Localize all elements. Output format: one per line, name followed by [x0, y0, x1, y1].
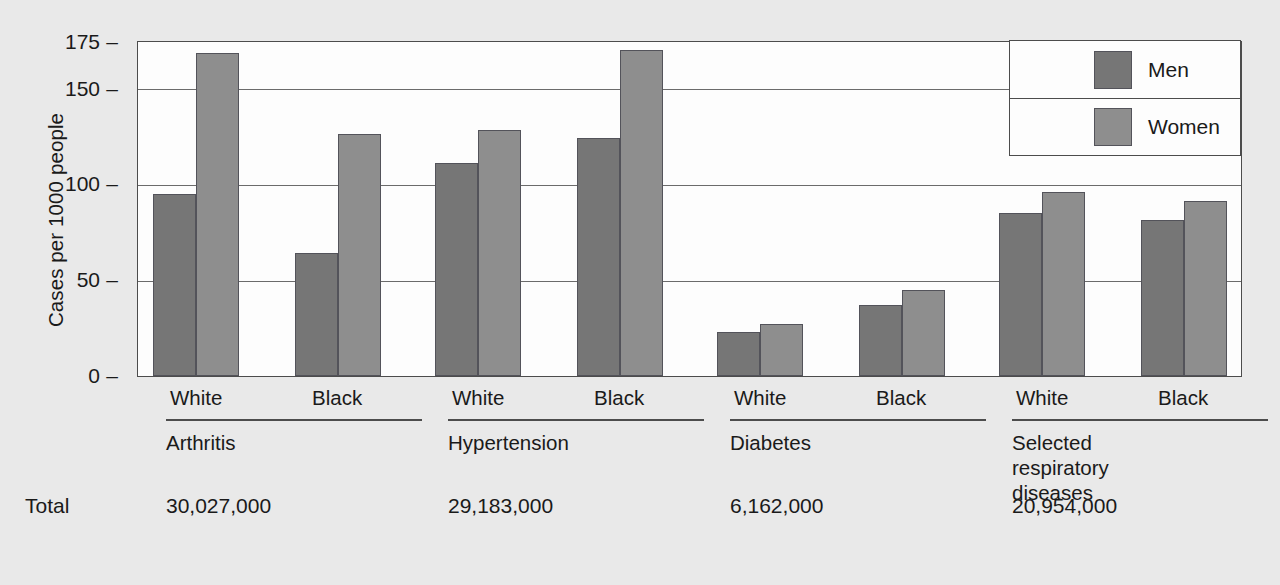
bar-arthritis-white-men — [153, 194, 196, 376]
y-tick-150: 150– — [40, 78, 118, 99]
tick-dash-icon: – — [105, 31, 118, 52]
x-sub-label-white: White — [452, 386, 504, 410]
x-sub-label-white: White — [1016, 386, 1068, 410]
bar-hypertension-white-women — [478, 130, 521, 376]
x-sub-label-black: Black — [1158, 386, 1208, 410]
tick-dash-icon: – — [105, 173, 118, 194]
y-tick-50-text: 50 — [77, 268, 100, 291]
bar-chart-figure: Cases per 1000 people 175– 150– 100– 50–… — [0, 0, 1280, 585]
bar-arthritis-black-men — [295, 253, 338, 376]
x-group-name-diabetes: Diabetes — [730, 430, 811, 455]
x-group-rule — [730, 419, 986, 421]
y-tick-100-text: 100 — [65, 172, 100, 195]
x-sub-label-white: White — [734, 386, 786, 410]
bar-diabetes-white-women — [760, 324, 803, 376]
y-tick-175-text: 175 — [65, 30, 100, 53]
legend-item-women: Women — [1010, 98, 1240, 155]
legend-label-men: Men — [1148, 58, 1189, 82]
legend-item-men: Men — [1010, 41, 1240, 98]
tick-dash-icon: – — [105, 365, 118, 386]
tick-dash-icon: – — [105, 269, 118, 290]
y-tick-0-text: 0 — [88, 364, 100, 387]
x-group-name-arthritis: Arthritis — [166, 430, 235, 455]
bar-arthritis-black-women — [338, 134, 381, 376]
total-value-diabetes: 6,162,000 — [730, 494, 823, 518]
y-tick-50: 50– — [40, 269, 118, 290]
bar-hypertension-black-men — [577, 138, 620, 376]
y-tick-175: 175– — [40, 31, 118, 52]
bar-selected-respiratory-diseases-black-women — [1184, 201, 1227, 376]
bar-selected-respiratory-diseases-white-men — [999, 213, 1042, 376]
total-row-label: Total — [25, 494, 69, 518]
x-group-rule — [166, 419, 422, 421]
legend-swatch-women-icon — [1094, 108, 1132, 146]
bar-selected-respiratory-diseases-black-men — [1141, 220, 1184, 376]
bar-diabetes-black-men — [859, 305, 902, 376]
bar-diabetes-white-men — [717, 332, 760, 376]
x-sub-label-black: Black — [594, 386, 644, 410]
total-value-respiratory: 20,954,000 — [1012, 494, 1117, 518]
x-group-name-hypertension: Hypertension — [448, 430, 569, 455]
total-value-arthritis: 30,027,000 — [166, 494, 271, 518]
x-sub-label-white: White — [170, 386, 222, 410]
y-tick-100: 100– — [40, 173, 118, 194]
bar-arthritis-white-women — [196, 53, 239, 376]
total-value-hypertension: 29,183,000 — [448, 494, 553, 518]
y-axis-label: Cases per 1000 people — [44, 60, 68, 380]
plot-area: Men Women — [137, 41, 1242, 377]
legend-label-women: Women — [1148, 115, 1220, 139]
bar-hypertension-white-men — [435, 163, 478, 376]
bar-hypertension-black-women — [620, 50, 663, 376]
tick-dash-icon: – — [105, 78, 118, 99]
bar-diabetes-black-women — [902, 290, 945, 376]
y-tick-150-text: 150 — [65, 77, 100, 100]
x-sub-label-black: Black — [312, 386, 362, 410]
y-tick-0: 0– — [40, 365, 118, 386]
x-group-rule — [1012, 419, 1268, 421]
x-group-rule — [448, 419, 704, 421]
legend: Men Women — [1009, 40, 1241, 156]
bar-selected-respiratory-diseases-white-women — [1042, 192, 1085, 376]
x-sub-label-black: Black — [876, 386, 926, 410]
legend-swatch-men-icon — [1094, 51, 1132, 89]
